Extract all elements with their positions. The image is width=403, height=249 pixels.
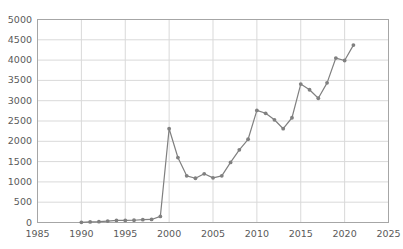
y-tick-label: 500: [0, 197, 32, 207]
data-point-marker: [88, 220, 92, 224]
series-line: [81, 45, 353, 222]
line-chart: 0500100015002000250030003500400045005000…: [0, 0, 403, 249]
data-point-marker: [220, 174, 224, 178]
data-point-marker: [185, 174, 189, 178]
data-point-marker: [79, 220, 83, 224]
data-point-marker: [299, 82, 303, 86]
data-point-marker: [229, 161, 233, 165]
data-point-marker: [334, 56, 338, 60]
data-point-marker: [308, 88, 312, 92]
x-tick-label: 2010: [239, 229, 275, 239]
y-tick-label: 2500: [0, 116, 32, 126]
y-tick-label: 4500: [0, 35, 32, 45]
y-tick-label: 3500: [0, 75, 32, 85]
data-series: [79, 43, 355, 224]
data-point-marker: [316, 96, 320, 100]
data-point-marker: [167, 127, 171, 131]
data-point-marker: [325, 81, 329, 85]
data-point-marker: [194, 176, 198, 180]
data-point-marker: [343, 59, 347, 63]
data-point-marker: [211, 176, 215, 180]
x-tick-label: 2000: [151, 229, 187, 239]
y-tick-label: 3000: [0, 96, 32, 106]
y-tick-label: 1500: [0, 157, 32, 167]
data-point-marker: [132, 218, 136, 222]
x-tick-label: 2025: [371, 229, 403, 239]
x-tick-label: 1990: [63, 229, 99, 239]
data-point-marker: [176, 156, 180, 160]
gridlines: [38, 20, 389, 223]
data-point-marker: [273, 118, 277, 122]
data-point-marker: [115, 219, 119, 223]
y-tick-label: 2000: [0, 136, 32, 146]
data-point-marker: [97, 220, 101, 224]
data-point-marker: [281, 127, 285, 131]
y-tick-label: 1000: [0, 177, 32, 187]
x-tick-label: 2020: [327, 229, 363, 239]
data-point-marker: [158, 215, 162, 219]
x-tick-label: 1995: [107, 229, 143, 239]
data-point-marker: [352, 43, 356, 47]
data-point-marker: [255, 109, 259, 113]
y-tick-label: 0: [0, 218, 32, 228]
data-point-marker: [290, 116, 294, 120]
data-point-marker: [150, 218, 154, 222]
data-point-marker: [141, 218, 145, 222]
x-tick-label: 2015: [283, 229, 319, 239]
x-tick-label: 2005: [195, 229, 231, 239]
data-point-marker: [237, 148, 241, 152]
plot-area: [0, 0, 403, 249]
data-point-marker: [202, 172, 206, 176]
data-point-marker: [264, 111, 268, 115]
x-tick-label: 1985: [20, 229, 56, 239]
data-point-marker: [123, 219, 127, 223]
data-point-marker: [246, 137, 250, 141]
data-point-marker: [106, 219, 110, 223]
y-tick-label: 4000: [0, 55, 32, 65]
y-tick-label: 5000: [0, 15, 32, 25]
